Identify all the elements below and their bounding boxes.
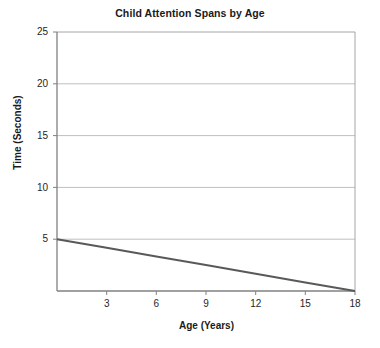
y-tick-label-20: 20 (4, 79, 48, 89)
y-tick-label-15: 15 (4, 131, 48, 141)
x-tick-label-3: 3 (92, 299, 122, 309)
x-tick-label-18: 18 (340, 299, 370, 309)
data-series-line (57, 239, 355, 291)
x-tick-label-9: 9 (191, 299, 221, 309)
x-tick-label-15: 15 (290, 299, 320, 309)
plot-area (0, 0, 380, 348)
x-tick-label-12: 12 (241, 299, 271, 309)
x-tick-label-6: 6 (141, 299, 171, 309)
y-tick-label-5: 5 (4, 234, 48, 244)
y-tick-label-25: 25 (4, 27, 48, 37)
x-axis-title: Age (Years) (57, 320, 356, 331)
chart-container: Child Attention Spans by Age Time (Secon… (0, 0, 380, 348)
y-tick-label-10: 10 (4, 183, 48, 193)
